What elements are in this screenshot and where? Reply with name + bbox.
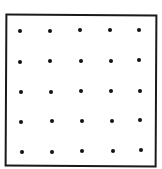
grid-dot — [139, 148, 143, 152]
grid-dot — [78, 28, 82, 32]
grid-dot — [109, 59, 113, 63]
grid-dot — [108, 28, 112, 32]
grid-dot — [50, 119, 54, 123]
grid-dot — [109, 89, 113, 93]
grid-dot — [80, 119, 84, 123]
grid-dot — [18, 29, 22, 33]
grid-dot — [49, 90, 53, 94]
grid-dot — [48, 59, 52, 63]
grid-dot — [18, 60, 22, 64]
grid-dot — [79, 89, 83, 93]
grid-dot — [48, 29, 52, 33]
grid-dot — [19, 90, 23, 94]
grid-dot — [137, 28, 141, 32]
grid-dot — [79, 59, 83, 63]
grid-dot — [138, 118, 142, 122]
grid-dot — [138, 89, 142, 93]
grid-dot — [50, 150, 54, 154]
grid-dot — [19, 120, 23, 124]
grid-dot — [137, 58, 141, 62]
grid-dot — [110, 119, 114, 123]
grid-dot — [111, 149, 115, 153]
grid-dot — [20, 150, 24, 154]
grid-dot — [80, 149, 84, 153]
